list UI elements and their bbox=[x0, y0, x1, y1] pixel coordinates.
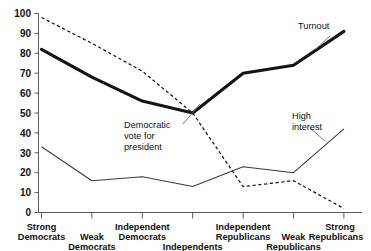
x-axis-labels-upper-row: Strong Democrats Independent Democrats I… bbox=[18, 222, 364, 242]
x-tick-label-strong-republicans-line2: Republicans bbox=[309, 232, 364, 242]
y-tick-label: 50 bbox=[20, 108, 32, 119]
x-axis-ticks bbox=[42, 213, 344, 219]
x-tick-label-strong-republicans-line1: Strong bbox=[325, 222, 355, 232]
y-tick-label: 0 bbox=[25, 207, 31, 218]
x-tick-label-independent-democrats-line1: Independent bbox=[115, 222, 170, 232]
y-tick-label: 70 bbox=[20, 68, 32, 79]
x-tick-label-independent-republicans-line1: Independent bbox=[216, 222, 271, 232]
y-axis-ticks bbox=[35, 14, 39, 213]
annotation-democratic-vote-line1: Democratic bbox=[124, 120, 171, 130]
x-tick-label-weak-republicans-line2: Republicans bbox=[266, 242, 321, 251]
annotation-democratic-vote-line2: vote for bbox=[124, 131, 155, 141]
y-axis-tick-labels: 100 90 80 70 60 50 40 30 20 10 0 bbox=[14, 8, 31, 218]
annotation-high-interest-line2: interest bbox=[292, 122, 323, 132]
chart-container: 100 90 80 70 60 50 40 30 20 10 0 bbox=[0, 0, 371, 251]
series-line-turnout bbox=[42, 31, 344, 113]
annotation-democratic-vote-line3: president bbox=[124, 142, 162, 152]
x-tick-label-independents: Independents bbox=[163, 242, 223, 251]
y-tick-label: 90 bbox=[20, 28, 32, 39]
x-tick-label-strong-democrats-line2: Democrats bbox=[18, 232, 66, 242]
x-tick-label-strong-democrats-line1: Strong bbox=[27, 222, 57, 232]
line-chart-plot: 100 90 80 70 60 50 40 30 20 10 0 bbox=[0, 0, 371, 251]
y-tick-label: 40 bbox=[20, 128, 32, 139]
y-tick-label: 80 bbox=[20, 48, 32, 59]
x-tick-label-independent-democrats-line2: Democrats bbox=[119, 232, 167, 242]
y-tick-label: 20 bbox=[20, 167, 32, 178]
y-tick-label: 10 bbox=[20, 187, 32, 198]
y-tick-label: 30 bbox=[20, 148, 32, 159]
series-line-high-interest bbox=[42, 129, 344, 187]
annotation-turnout: Turnout bbox=[298, 21, 330, 31]
annotation-high-interest-line1: High bbox=[292, 111, 311, 121]
y-tick-label: 100 bbox=[14, 8, 31, 19]
y-tick-label: 60 bbox=[20, 88, 32, 99]
x-axis-labels-lower-row: Weak Democrats Independents Weak Republi… bbox=[68, 232, 321, 251]
x-tick-label-independent-republicans-line2: Republicans bbox=[216, 232, 271, 242]
x-tick-label-weak-republicans-line1: Weak bbox=[282, 232, 307, 242]
x-tick-label-weak-democrats-line1: Weak bbox=[80, 232, 105, 242]
x-tick-label-weak-democrats-line2: Democrats bbox=[68, 242, 116, 251]
